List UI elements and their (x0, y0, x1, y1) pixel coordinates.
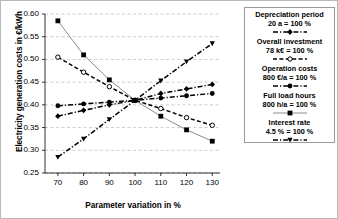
data-point (184, 93, 189, 98)
data-point (55, 18, 60, 23)
legend-entry-title: Full load hours (245, 91, 334, 100)
legend-swatch-icon (270, 109, 310, 117)
legend-swatch-icon (270, 55, 310, 63)
data-point (81, 70, 85, 74)
legend-swatch-icon (270, 82, 310, 90)
legend-swatch (245, 108, 334, 116)
data-point (210, 91, 215, 96)
legend-swatch (245, 54, 334, 62)
data-point (210, 123, 214, 127)
legend-entry-title: Interest rate (245, 118, 334, 127)
legend-swatch-icon (270, 136, 310, 144)
data-point (159, 106, 163, 110)
legend-swatch (245, 135, 334, 143)
data-point (81, 102, 86, 107)
legend-marker (287, 29, 292, 35)
legend-marker (287, 111, 292, 116)
legend-entry: Depreciation period20 a = 100 % (245, 10, 334, 35)
legend-marker (287, 57, 291, 61)
legend-swatch (245, 81, 334, 89)
legend-entry-title: Overall investment (245, 37, 334, 46)
legend-swatch-icon (270, 28, 310, 36)
legend-entry: Full load hours800 h/a = 100 % (245, 91, 334, 116)
data-point (81, 52, 86, 57)
legend-entry-title: Operation costs (245, 64, 334, 73)
data-point (210, 139, 215, 144)
data-point (107, 77, 112, 82)
data-point (56, 55, 60, 59)
chart-figure: Electricity generation costs in €/kWh Pa… (0, 0, 338, 219)
data-point (184, 127, 189, 132)
data-point (107, 84, 111, 88)
data-point (55, 103, 60, 108)
data-point (184, 115, 188, 119)
legend-marker (287, 84, 292, 89)
legend-entry: Interest rate4.5 % = 100 % (245, 118, 334, 143)
legend-entry: Overall investment78 k€ = 100 % (245, 37, 334, 62)
data-point (287, 57, 291, 61)
data-point (287, 84, 292, 89)
legend-entry: Operation costs800 €/a = 100 % (245, 64, 334, 89)
data-point (158, 114, 163, 119)
legend-swatch (245, 27, 334, 35)
data-point (287, 111, 292, 116)
chart-legend: Depreciation period20 a = 100 %Overall i… (244, 7, 335, 143)
data-point (287, 29, 292, 35)
legend-entry-title: Depreciation period (245, 10, 334, 19)
